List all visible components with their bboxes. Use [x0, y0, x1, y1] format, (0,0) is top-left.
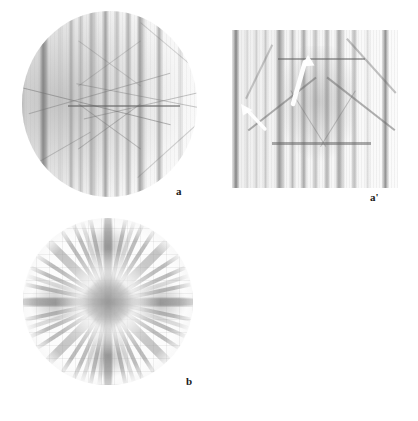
panel-a-prime-label: a'	[370, 192, 379, 203]
panel-a-label: a	[176, 186, 182, 197]
panel-b-label: b	[186, 376, 192, 387]
panel-a-prime-enlarged-image	[232, 30, 398, 188]
panel-a-prime-arrow-lower	[232, 30, 398, 188]
figure-description: Three-panel electron diffraction (Kikuch…	[0, 0, 1, 1]
panel-b-diffraction-image	[23, 218, 193, 385]
panel-a-horizontal-kikuchi-line	[68, 105, 180, 107]
panel-a-diffraction-image	[22, 11, 197, 197]
figure-root: a a'	[0, 0, 418, 421]
